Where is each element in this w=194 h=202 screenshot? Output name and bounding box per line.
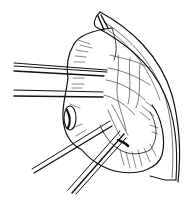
mesentery xyxy=(104,55,150,136)
bowel-opening xyxy=(64,106,76,130)
peritoneal-flap xyxy=(94,12,179,182)
forceps-horizontal-upper xyxy=(14,63,107,76)
bowel-loop xyxy=(63,28,164,173)
surgical-illustration xyxy=(0,0,194,202)
forceps-horizontal-lower xyxy=(14,90,103,97)
